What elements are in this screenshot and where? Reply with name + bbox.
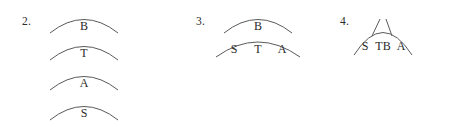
item-number-2: 2. [22,15,31,27]
arc-label-2-3: A [48,77,120,89]
arc-cell: S [222,43,246,55]
arc-label-2-4: S [48,107,120,119]
arc-cell: A [392,40,410,52]
arc-cell: T [80,47,87,59]
arc-cell: S [81,107,88,119]
arc-cell: TB [374,40,392,52]
arc-unit-2-3: A [48,65,120,91]
arc-cell: A [270,43,294,55]
diagram-canvas: 2. B T A S 3. [0,0,455,127]
item-number-4: 4. [340,15,349,27]
arc-label-2-2: T [48,47,120,59]
arc-cell: A [80,77,89,89]
arc-cell: T [246,43,270,55]
arc-unit-4-1: STBA [352,14,414,56]
arc-unit-2-2: T [48,35,120,61]
arc-label-3-2: STA [214,43,302,55]
arc-unit-2-1: B [48,8,120,34]
arc-cell: S [356,40,374,52]
arc-unit-3-2: STA [214,30,302,58]
item-number-3: 3. [196,15,205,27]
arc-label-4-1: STBA [352,40,414,52]
arc-cell: B [80,20,88,32]
arc-label-2-1: B [48,20,120,32]
arc-unit-2-4: S [48,95,120,121]
